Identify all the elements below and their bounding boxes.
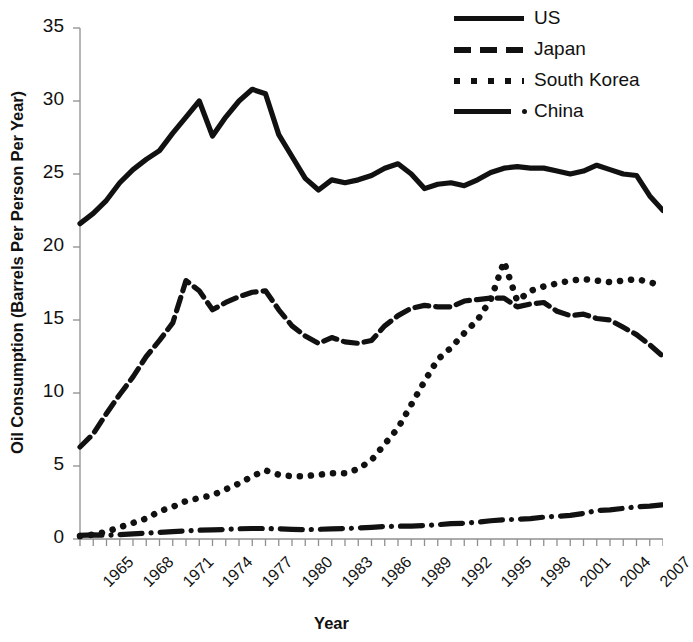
y-tick-label: 5 <box>24 453 64 475</box>
legend-label-japan: Japan <box>534 38 586 60</box>
data-series-group <box>80 89 663 536</box>
legend-item-south-korea: South Korea <box>452 64 662 95</box>
y-tick-label: 0 <box>24 526 64 548</box>
y-tick-label: 30 <box>24 88 64 110</box>
legend-item-us: US <box>452 2 662 33</box>
legend-item-japan: Japan <box>452 33 662 64</box>
legend-label-south-korea: South Korea <box>534 69 640 91</box>
legend-key-solid-icon <box>452 11 530 25</box>
legend-item-china: China <box>452 95 662 126</box>
legend-label-china: China <box>534 100 584 122</box>
y-tick-label: 25 <box>24 161 64 183</box>
y-tick-label: 35 <box>24 15 64 37</box>
y-tick-label: 20 <box>24 234 64 256</box>
y-tick-label: 10 <box>24 380 64 402</box>
series-line-japan <box>80 281 663 447</box>
series-line-south-korea <box>80 262 663 536</box>
legend-key-dotted-icon <box>452 73 530 87</box>
legend-key-dashdot-icon <box>452 104 530 118</box>
legend-label-us: US <box>534 7 560 29</box>
y-tick-label: 15 <box>24 307 64 329</box>
x-axis-title: Year <box>0 614 663 633</box>
legend-key-dashed-icon <box>452 42 530 56</box>
legend: US Japan South Korea China <box>452 2 662 126</box>
